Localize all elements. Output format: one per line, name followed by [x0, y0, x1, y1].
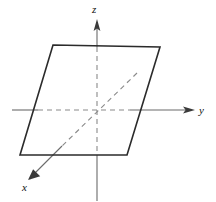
x-axis-dashed-back [62, 73, 137, 146]
figure-canvas: z y x [0, 0, 216, 202]
coordinate-axes-diagram [0, 0, 216, 202]
y-axis-group [12, 107, 195, 114]
x-axis-group [28, 73, 137, 180]
x-axis-label: x [22, 182, 27, 193]
xy-plane-parallelogram [20, 45, 160, 155]
y-axis-label: y [199, 105, 204, 116]
z-axis-label: z [92, 4, 96, 15]
x-axis-solid-front [34, 146, 62, 174]
x-axis-arrowhead-icon [28, 169, 40, 180]
